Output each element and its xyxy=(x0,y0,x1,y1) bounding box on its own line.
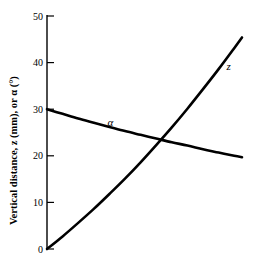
chart-figure: 0 10 20 30 40 50 Vertical distance, z (m… xyxy=(0,0,253,270)
series-z-curve xyxy=(47,37,242,249)
y-tick-label-10: 10 xyxy=(33,197,43,208)
series-alpha-curve xyxy=(47,109,242,157)
series-alpha-label: α xyxy=(108,116,114,128)
y-tick-label-0: 0 xyxy=(38,244,43,255)
y-tick-label-20: 20 xyxy=(33,150,43,161)
y-tick-label-30: 30 xyxy=(33,104,43,115)
chart-canvas: 0 10 20 30 40 50 Vertical distance, z (m… xyxy=(0,0,253,270)
y-axis-title: Vertical distance, z (mm), or α (°) xyxy=(8,76,20,225)
series-z-label: z xyxy=(225,60,231,72)
y-tick-label-50: 50 xyxy=(33,11,43,22)
y-tick-label-40: 40 xyxy=(33,57,43,68)
